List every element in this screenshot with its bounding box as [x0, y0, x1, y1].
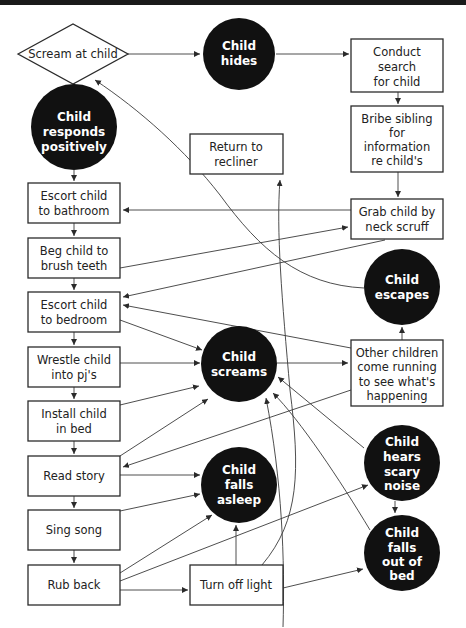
svg-text:scary: scary: [384, 465, 420, 479]
node-sing-song[interactable]: Sing song: [28, 510, 120, 550]
node-label: Bribe sibling: [361, 112, 432, 126]
node-label: Read story: [43, 469, 105, 483]
svg-text:Conduct: Conduct: [373, 45, 421, 59]
node-label: Child: [385, 435, 419, 449]
node-label: Grab child by: [359, 205, 436, 219]
node-label: Child: [385, 273, 419, 287]
svg-text:Bribe sibling: Bribe sibling: [361, 112, 432, 126]
svg-text:Grab child by: Grab child by: [359, 205, 436, 219]
node-child-hides[interactable]: Child hides: [203, 18, 275, 90]
node-other-children[interactable]: Other children come running to see what'…: [351, 340, 443, 406]
svg-text:in bed: in bed: [56, 422, 92, 436]
svg-text:into pj's: into pj's: [51, 368, 96, 382]
node-install-in-bed[interactable]: Install child in bed: [28, 401, 120, 441]
node-conduct-search[interactable]: Conduct search for child: [351, 39, 443, 92]
svg-text:asleep: asleep: [217, 493, 262, 507]
node-turn-off-light[interactable]: Turn off light: [190, 565, 283, 605]
node-escort-to-bedroom[interactable]: Escort child to bedroom: [28, 292, 120, 332]
node-label: positively: [41, 140, 107, 154]
node-label: recliner: [214, 155, 258, 169]
svg-text:Child: Child: [385, 435, 419, 449]
node-scream-at-child[interactable]: Scream at child: [18, 24, 128, 84]
node-label: scary: [384, 465, 420, 479]
node-label: hides: [221, 54, 258, 68]
node-label: out of: [382, 555, 423, 569]
node-child-falls-asleep[interactable]: Child falls asleep: [201, 447, 277, 523]
svg-text:to see what's: to see what's: [359, 375, 435, 389]
svg-text:Child: Child: [57, 110, 91, 124]
node-bribe-sibling[interactable]: Bribe sibling for information re child's: [351, 106, 443, 172]
svg-text:re child's: re child's: [371, 154, 423, 168]
node-label: hears: [383, 450, 421, 464]
node-label: Child: [57, 110, 91, 124]
node-label: screams: [211, 365, 267, 379]
svg-text:Scream at child: Scream at child: [28, 47, 118, 61]
node-label: for child: [374, 75, 421, 89]
node-label: in bed: [56, 422, 92, 436]
node-escort-to-bathroom[interactable]: Escort child to bathroom: [28, 183, 120, 223]
edge-fallsout-screams: [273, 393, 370, 530]
svg-text:Install child: Install child: [41, 407, 107, 421]
svg-text:positively: positively: [41, 140, 107, 154]
node-label: neck scruff: [365, 220, 429, 234]
node-wrestle-into-pjs[interactable]: Wrestle child into pj's: [28, 347, 120, 387]
node-grab-neck-scruff[interactable]: Grab child by neck scruff: [351, 199, 443, 239]
node-label: Rub back: [47, 578, 100, 592]
svg-text:bed: bed: [389, 569, 414, 583]
node-read-story[interactable]: Read story: [28, 456, 120, 496]
node-label: Install child: [41, 407, 107, 421]
node-label: Escort child: [41, 298, 108, 312]
svg-text:screams: screams: [211, 365, 267, 379]
node-label: Turn off light: [199, 578, 273, 592]
svg-text:for child: for child: [374, 75, 421, 89]
node-label: Child: [222, 39, 256, 53]
node-label: to bathroom: [38, 204, 109, 218]
node-label: come running: [357, 360, 437, 374]
svg-text:recliner: recliner: [214, 155, 258, 169]
node-label: escapes: [375, 288, 429, 302]
edge-grab-bedroom: [123, 240, 385, 297]
svg-text:Turn off light: Turn off light: [199, 578, 273, 592]
node-child-hears-scary-noise[interactable]: Child hears scary noise: [364, 425, 440, 501]
svg-text:responds: responds: [43, 125, 105, 139]
svg-text:Escort child: Escort child: [41, 298, 108, 312]
node-child-falls-out-of-bed[interactable]: Child falls out of bed: [364, 515, 440, 591]
node-rub-back[interactable]: Rub back: [28, 565, 120, 605]
svg-text:hears: hears: [383, 450, 421, 464]
node-label: happening: [366, 389, 427, 403]
node-beg-brush-teeth[interactable]: Beg child to brush teeth: [28, 238, 120, 278]
node-return-to-recliner[interactable]: Return to recliner: [190, 134, 283, 174]
svg-text:Child: Child: [385, 273, 419, 287]
svg-text:falls: falls: [388, 541, 417, 555]
circle-shape: [201, 326, 277, 402]
svg-text:Wrestle child: Wrestle child: [37, 353, 111, 367]
node-label: Escort child: [41, 189, 108, 203]
svg-text:come running: come running: [357, 360, 437, 374]
svg-text:neck scruff: neck scruff: [365, 220, 429, 234]
node-label: Beg child to: [40, 244, 108, 258]
node-child-escapes[interactable]: Child escapes: [364, 249, 440, 325]
node-label: noise: [384, 479, 420, 493]
edge-escapes-scream: [95, 80, 364, 288]
node-label: falls: [388, 541, 417, 555]
node-label: information: [364, 140, 430, 154]
node-child-screams[interactable]: Child screams: [201, 326, 277, 402]
svg-text:to bathroom: to bathroom: [38, 204, 109, 218]
node-label: Child: [222, 463, 256, 477]
svg-text:Escort child: Escort child: [41, 189, 108, 203]
node-label: falls: [225, 478, 254, 492]
node-label: for: [389, 126, 405, 140]
svg-text:Read story: Read story: [43, 469, 105, 483]
svg-text:falls: falls: [225, 478, 254, 492]
svg-text:Return to: Return to: [209, 140, 262, 154]
node-label: Wrestle child: [37, 353, 111, 367]
flowchart: Scream at child Child hides Conduct sear…: [0, 0, 466, 628]
svg-text:hides: hides: [221, 54, 258, 68]
node-label: to bedroom: [41, 313, 108, 327]
edge-story-screams: [120, 399, 208, 456]
node-label: search: [378, 60, 416, 74]
svg-text:happening: happening: [366, 389, 427, 403]
svg-text:Beg child to: Beg child to: [40, 244, 108, 258]
node-child-responds-positively[interactable]: Child responds positively: [31, 84, 117, 170]
svg-text:search: search: [378, 60, 416, 74]
